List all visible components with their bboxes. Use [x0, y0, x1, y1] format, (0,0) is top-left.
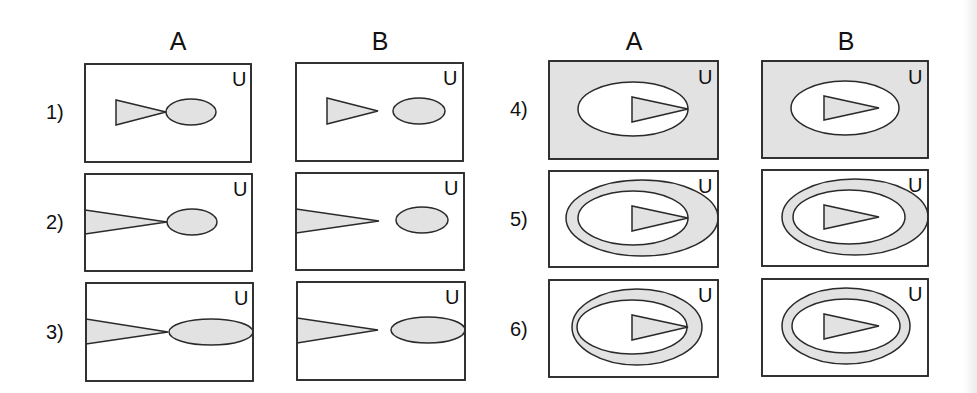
- universe-label: U: [233, 178, 247, 200]
- ellipse-set: [167, 209, 217, 235]
- venn-panel-3b: U: [297, 282, 465, 380]
- venn-panel-1a: U: [85, 64, 251, 162]
- venn-diagram-figure: ABAB 1)2)3)4)5)6) UUUUUUUUUUUU: [0, 0, 977, 393]
- row-label-5: 5): [510, 208, 528, 230]
- column-header-a: A: [626, 27, 643, 55]
- column-header-b: B: [838, 27, 855, 55]
- column-headers: ABAB: [170, 27, 855, 55]
- venn-panel-6b: U: [762, 279, 928, 376]
- venn-panel-6a: U: [549, 280, 718, 377]
- universe-label: U: [232, 68, 246, 90]
- ellipse-set: [393, 98, 445, 124]
- universe-label: U: [443, 67, 457, 89]
- venn-panel-2a: U: [85, 174, 252, 271]
- venn-panel-5b: U: [762, 170, 928, 266]
- row-label-4: 4): [510, 98, 528, 120]
- venn-panel-4a: U: [549, 61, 718, 159]
- venn-panel-3a: U: [86, 283, 253, 381]
- row-label-3: 3): [46, 321, 64, 343]
- column-header-a: A: [170, 27, 187, 55]
- universe-label: U: [908, 66, 922, 88]
- universe-label: U: [445, 286, 459, 308]
- universe-label: U: [698, 284, 712, 306]
- universe-label: U: [908, 174, 922, 196]
- ellipse-set: [391, 317, 465, 343]
- ellipse-set: [396, 207, 448, 233]
- venn-panel-1b: U: [296, 63, 463, 161]
- universe-label: U: [698, 66, 712, 88]
- ellipse-set: [169, 319, 253, 345]
- row-label-6: 6): [510, 318, 528, 340]
- venn-panel-4b: U: [762, 61, 928, 158]
- row-label-2: 2): [46, 211, 64, 233]
- universe-label: U: [234, 287, 248, 309]
- venn-panel-2b: U: [296, 173, 464, 270]
- venn-panel-5a: U: [549, 171, 718, 267]
- ellipse-set: [166, 99, 216, 125]
- universe-label: U: [908, 283, 922, 305]
- universe-label: U: [444, 177, 458, 199]
- venn-panels: UUUUUUUUUUUU: [85, 61, 928, 381]
- universe-label: U: [698, 175, 712, 197]
- row-label-1: 1): [46, 101, 64, 123]
- column-header-b: B: [372, 27, 389, 55]
